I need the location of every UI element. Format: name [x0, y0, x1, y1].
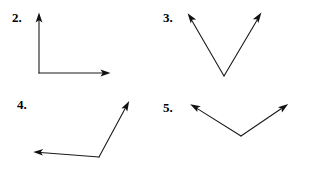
angle-4-ray-upper-right-line: [99, 108, 125, 157]
angle-3-ray-upper-right-arrowhead: [253, 13, 262, 23]
angle-5-ray-upper-left-line: [197, 109, 241, 136]
problem-label-2: 2.: [12, 11, 22, 24]
worksheet-page: 2. 3. 4. 5.: [0, 0, 309, 174]
angle-2-ray-up-arrowhead: [36, 13, 43, 23]
angle-3-ray-upper-left-line: [192, 21, 224, 77]
angle-2-ray-right-arrowhead: [101, 70, 111, 77]
angle-figure-2: [36, 13, 111, 77]
problem-label-4: 4.: [17, 98, 27, 111]
angle-figures-canvas: [0, 0, 309, 174]
angle-figure-4: [33, 101, 129, 157]
angle-4-ray-left-line: [41, 153, 100, 158]
angle-3-ray-upper-right-line: [224, 20, 257, 76]
angle-figure-3: [188, 13, 262, 76]
angle-5-ray-upper-left-arrowhead: [190, 104, 201, 112]
problem-label-3: 3.: [163, 11, 173, 24]
angle-5-ray-upper-right-arrowhead: [278, 104, 288, 113]
angle-3-ray-upper-left-arrowhead: [188, 13, 197, 23]
angle-4-ray-left-arrowhead: [33, 149, 43, 156]
angle-figure-5: [190, 104, 288, 136]
angle-4-ray-upper-right-arrowhead: [121, 101, 129, 112]
angle-5-ray-upper-right-line: [241, 109, 281, 136]
problem-label-5: 5.: [163, 101, 173, 114]
